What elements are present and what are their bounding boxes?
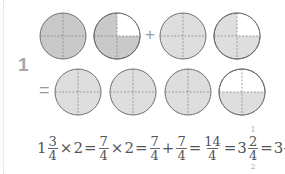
result-circle-full-2 [109, 68, 157, 116]
denominator: 2 [284, 148, 285, 162]
reduced-numerator-note: 1 [251, 126, 256, 134]
denominator: 4 [48, 148, 58, 162]
plus-operator: + [145, 25, 155, 45]
numerator: 7 [99, 135, 109, 148]
numerator: 14 [203, 135, 222, 148]
denominator: 4 [176, 148, 186, 162]
left-margin-rule [3, 0, 4, 174]
numerator: 1 [284, 135, 285, 148]
solution-equation: 1 3 4 × 2 = 7 4 × 2 = 7 4 + 7 4 = 14 4 =… [37, 128, 285, 168]
equals-sign: = [224, 139, 237, 157]
plus-sign: + [162, 139, 175, 157]
result-circle-half [218, 68, 266, 116]
whole-part: 3 [274, 139, 284, 157]
reduced-denominator-note: 2 [251, 163, 256, 171]
times-sign: × [60, 139, 73, 157]
equals-operator: = [39, 80, 50, 101]
result-circle-full-1 [54, 68, 102, 116]
fraction: 1 2 [284, 135, 285, 162]
fraction-circle-three-quarters-dark [93, 12, 141, 60]
numerator-value: 2 [249, 134, 257, 149]
result-circle-full-3 [164, 68, 212, 116]
fraction: 7 4 [150, 135, 160, 162]
denominator: 4 [207, 148, 217, 162]
denominator: 4 2 [248, 148, 258, 162]
fraction-circle-full-light [159, 12, 207, 60]
numerator: 2 1 [248, 135, 258, 148]
fraction: 14 4 [203, 135, 222, 162]
fraction-circle-three-quarters-light [213, 12, 261, 60]
numerator: 7 [150, 135, 160, 148]
denominator-value: 4 [249, 148, 257, 163]
factor: 2 [73, 139, 83, 157]
denominator: 4 [150, 148, 160, 162]
denominator: 4 [99, 148, 109, 162]
equals-sign: = [189, 139, 202, 157]
equals-sign: = [135, 139, 148, 157]
fraction-circle-full-dark [39, 12, 87, 60]
times-sign: × [111, 139, 124, 157]
numerator: 3 [48, 135, 58, 148]
whole-part: 1 [37, 139, 47, 157]
fraction: 7 4 [176, 135, 186, 162]
problem-number: 1 [18, 54, 29, 76]
factor: 2 [124, 139, 134, 157]
simplified-fraction: 2 1 4 2 [248, 135, 258, 162]
fraction: 7 4 [99, 135, 109, 162]
equals-sign: = [84, 139, 97, 157]
whole-part: 3 [237, 139, 247, 157]
equals-sign: = [260, 139, 273, 157]
numerator: 7 [176, 135, 186, 148]
fraction: 3 4 [48, 135, 58, 162]
